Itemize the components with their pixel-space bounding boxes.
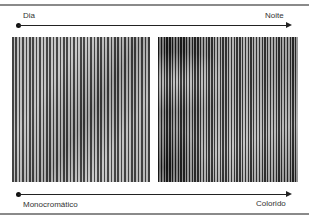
top-axis-start-label: Dia — [23, 11, 35, 20]
top-axis-end-label: Noite — [265, 11, 284, 20]
left-panel-stripes — [12, 37, 150, 182]
bottom-axis-arrow-icon — [286, 191, 292, 197]
bottom-axis-start-label: Monocromático — [23, 200, 78, 209]
right-panel-stripes — [158, 37, 298, 182]
bottom-axis-end-label: Colorido — [256, 199, 286, 208]
top-frame-line — [0, 4, 309, 6]
top-axis-line — [18, 25, 286, 26]
right-panel — [158, 37, 298, 182]
bottom-axis-line — [18, 194, 286, 195]
bottom-frame-line — [0, 213, 309, 215]
left-panel — [12, 37, 150, 182]
top-axis-arrow-icon — [286, 22, 292, 28]
